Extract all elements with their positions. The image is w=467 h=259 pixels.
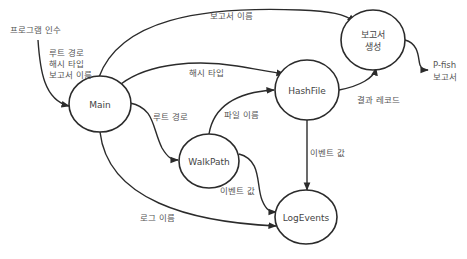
node-hashfile[interactable]: HashFile [275, 60, 339, 120]
edge-report-to-pfish [405, 40, 428, 70]
edge-label-root-path: 루트 경로 [49, 48, 84, 58]
edge-label-walkpath-to-logevents: 이벤트 값 [220, 186, 255, 196]
node-report-label-line2: 생성 [365, 42, 381, 52]
node-report-generation[interactable]: 보고서 생성 [341, 10, 405, 70]
edge-label-main-to-walkpath: 루트 경로 [153, 112, 188, 122]
edge-label-main-to-logevents: 로그 이름 [140, 213, 175, 223]
output-pfish-report-line1: P-fish [433, 60, 456, 70]
node-hashfile-label: HashFile [288, 86, 326, 96]
output-pfish-report-line2: 보고서 [433, 72, 457, 82]
node-logevents[interactable]: LogEvents [275, 190, 337, 244]
node-logevents-label: LogEvents [283, 213, 330, 223]
edge-label-main-to-report: 보고서 이름 [210, 11, 253, 21]
edge-label-walkpath-to-hashfile: 파일 이름 [224, 110, 259, 120]
node-walkpath-label: WalkPath [188, 157, 229, 167]
node-walkpath[interactable]: WalkPath [179, 134, 239, 188]
data-flow-diagram: Main WalkPath HashFile 보고서 생성 LogEvents … [0, 0, 467, 259]
edge-label-hash-type: 해시 타입 [49, 59, 84, 69]
node-main-label: Main [89, 100, 111, 110]
node-main[interactable]: Main [69, 76, 131, 132]
edge-label-report-name: 보고서 이름 [49, 70, 92, 80]
edge-label-hashfile-to-logevents: 이벤트 값 [310, 148, 345, 158]
edge-hashfile-to-report [339, 68, 376, 90]
edge-label-main-to-hashfile: 해시 타입 [189, 68, 224, 78]
input-program-args: 프로그램 인수 [10, 25, 61, 35]
edge-label-hashfile-to-report: 결과 레코드 [357, 95, 400, 105]
node-report-label-line1: 보고서 [361, 30, 385, 40]
edge-walkpath-to-logevents [239, 154, 276, 212]
